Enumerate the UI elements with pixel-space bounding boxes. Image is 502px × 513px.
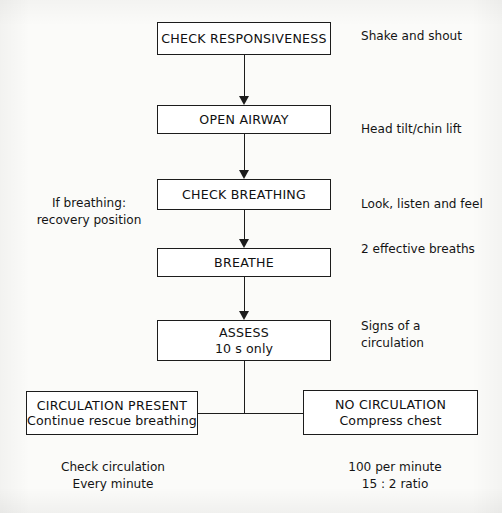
annotation-look-listen-and-feel: Look, listen and feel xyxy=(361,196,483,213)
connector-airway-to-breathing xyxy=(244,134,245,170)
annotation-line-2: Every minute xyxy=(38,476,188,493)
node-check-breathing: CHECK BREATHING xyxy=(157,179,331,210)
annotation-line-2: recovery position xyxy=(20,212,158,229)
connector-breathe-to-assess xyxy=(244,277,245,311)
connector-responsiveness-to-airway xyxy=(244,55,245,96)
annotation-signs-of-a-circulation: Signs of a circulation xyxy=(361,318,424,352)
arrowhead-breathing xyxy=(239,170,249,179)
node-assess: ASSESS 10 s only xyxy=(157,320,331,361)
connector-junction-to-circulation-present xyxy=(197,413,244,414)
node-label-primary: NO CIRCULATION xyxy=(335,397,446,412)
node-label-primary: CHECK RESPONSIVENESS xyxy=(161,31,327,46)
node-label-primary: CIRCULATION PRESENT xyxy=(37,398,187,413)
annotation-if-breathing: If breathing: recovery position xyxy=(20,195,158,229)
node-check-responsiveness: CHECK RESPONSIVENESS xyxy=(157,22,331,55)
node-no-circulation: NO CIRCULATION Compress chest xyxy=(303,390,478,435)
node-label-secondary: 10 s only xyxy=(215,341,273,356)
annotation-line-1: 100 per minute xyxy=(320,459,470,476)
node-label-primary: BREATHE xyxy=(214,255,274,270)
annotation-two-effective-breaths: 2 effective breaths xyxy=(361,241,475,258)
node-label-primary: ASSESS xyxy=(219,325,269,340)
node-open-airway: OPEN AIRWAY xyxy=(157,105,331,134)
annotation-line-1: Check circulation xyxy=(38,459,188,476)
flowchart-canvas: CHECK RESPONSIVENESS OPEN AIRWAY CHECK B… xyxy=(0,0,502,513)
node-breathe: BREATHE xyxy=(157,248,331,277)
annotation-line-1: 2 effective breaths xyxy=(361,241,475,258)
arrowhead-airway xyxy=(239,96,249,105)
node-circulation-present: CIRCULATION PRESENT Continue rescue brea… xyxy=(26,391,198,435)
annotation-line-1: Look, listen and feel xyxy=(361,196,483,213)
node-label-primary: OPEN AIRWAY xyxy=(199,112,288,127)
annotation-line-1: If breathing: xyxy=(20,195,158,212)
annotation-line-2: circulation xyxy=(361,335,424,352)
node-label-secondary: Continue rescue breathing xyxy=(27,413,197,428)
arrowhead-assess xyxy=(239,311,249,320)
annotation-check-circulation-footer: Check circulation Every minute xyxy=(38,459,188,493)
connector-breathing-to-breathe xyxy=(244,210,245,240)
annotation-head-tilt-chin-lift: Head tilt/chin lift xyxy=(361,121,461,138)
connector-junction-to-no-circulation xyxy=(244,413,304,414)
annotation-line-1: Shake and shout xyxy=(361,28,462,45)
connector-assess-to-junction xyxy=(244,361,245,414)
arrowhead-breathe xyxy=(239,239,249,248)
annotation-line-1: Head tilt/chin lift xyxy=(361,121,461,138)
annotation-line-2: 15 : 2 ratio xyxy=(320,476,470,493)
annotation-compression-rate-footer: 100 per minute 15 : 2 ratio xyxy=(320,459,470,493)
node-label-secondary: Compress chest xyxy=(339,413,441,428)
node-label-primary: CHECK BREATHING xyxy=(182,187,306,202)
annotation-line-1: Signs of a xyxy=(361,318,424,335)
annotation-shake-and-shout: Shake and shout xyxy=(361,28,462,45)
